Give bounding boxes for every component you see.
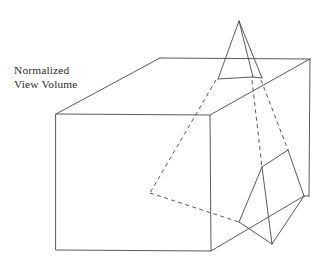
dashed-right-edge bbox=[261, 80, 288, 150]
upper-pyramid-base-right-edge bbox=[253, 77, 262, 78]
dashed-bottom-left-edge bbox=[150, 193, 239, 222]
box-bottom-right-edge bbox=[211, 196, 304, 251]
box-top-right-edge bbox=[210, 59, 310, 115]
upper-pyramid bbox=[218, 21, 262, 79]
upper-pyramid-left-edge bbox=[218, 21, 239, 79]
lower-pyramid-bottom-right-edge bbox=[272, 196, 304, 244]
lower-pyramid-back-right-edge bbox=[288, 150, 304, 196]
view-volume-diagram bbox=[0, 0, 327, 266]
lower-pyramid bbox=[239, 150, 304, 244]
box-top-back-edge bbox=[160, 58, 310, 59]
lower-pyramid-front-left-edge bbox=[239, 222, 272, 244]
figure-root: Normalized View Volume bbox=[0, 0, 327, 266]
normalized-view-volume-label-line1: Normalized bbox=[14, 64, 78, 78]
normalized-view-volume-label-line2: View Volume bbox=[14, 78, 78, 92]
dashed-inner-ridge-edge bbox=[252, 80, 262, 167]
upper-pyramid-base-front-edge bbox=[218, 77, 253, 79]
dashed-upper-left-edge bbox=[150, 80, 216, 193]
box-front-face-edges bbox=[56, 114, 211, 251]
box-right-back-vertical-edge bbox=[309, 59, 310, 196]
lower-pyramid-top-back-edge bbox=[262, 150, 288, 167]
upper-pyramid-ridge-edge bbox=[239, 21, 253, 77]
clip-plane-dashed-outline bbox=[150, 80, 288, 222]
upper-pyramid-right-edge bbox=[239, 21, 262, 78]
normalized-view-volume-label: Normalized View Volume bbox=[14, 64, 78, 91]
lower-pyramid-front-ridge-edge bbox=[262, 167, 272, 244]
lower-pyramid-ridge-left-edge bbox=[239, 167, 262, 222]
normalized-view-volume-box bbox=[56, 58, 310, 251]
